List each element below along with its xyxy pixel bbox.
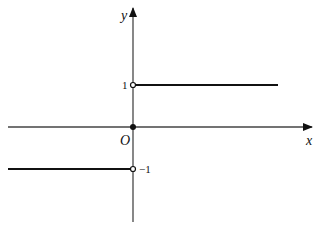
step-function-diagram: y x O 1 −1: [0, 0, 324, 232]
y-axis-label: y: [119, 8, 128, 23]
origin-label: O: [120, 133, 130, 148]
open-point-lower: [131, 167, 136, 172]
x-axis-label: x: [305, 133, 313, 148]
closed-point-origin: [130, 124, 136, 130]
open-point-upper: [131, 83, 136, 88]
tick-label-neg-1: −1: [139, 163, 151, 175]
tick-label-1: 1: [122, 79, 128, 91]
